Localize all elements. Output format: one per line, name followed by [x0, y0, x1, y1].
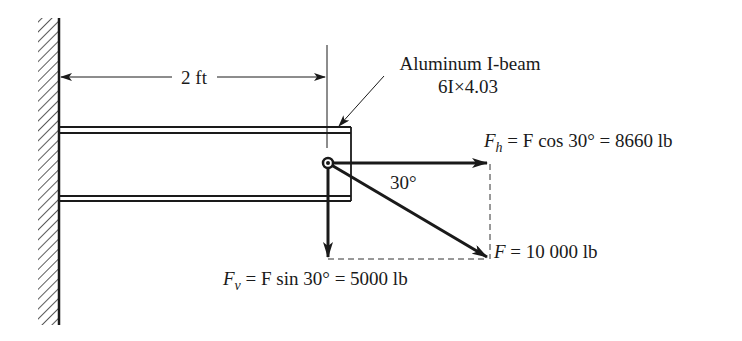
f-symbol: F: [493, 241, 506, 262]
beam-label-name: Aluminum I-beam: [400, 53, 541, 74]
f-expression: = 10 000 lb: [506, 241, 598, 262]
fh-label: Fh = F cos 30° = 8660 lb: [483, 130, 673, 155]
fv-label: Fv = F sin 30° = 5000 lb: [222, 268, 408, 293]
fh-symbol: F: [483, 130, 496, 151]
beam-force-diagram: 2 ft Aluminum I-beam 6I×4.03 30° Fh = F …: [0, 0, 742, 341]
fv-symbol: F: [222, 268, 235, 289]
angle-label: 30°: [390, 172, 417, 193]
dimension-label: 2 ft: [181, 67, 208, 88]
fv-expression: = F sin 30° = 5000 lb: [241, 268, 408, 289]
beam-label: Aluminum I-beam 6I×4.03: [339, 53, 541, 126]
leader-line: [339, 76, 384, 126]
wall-hatching: [38, 18, 59, 325]
i-beam: [59, 127, 351, 201]
fh-expression: = F cos 30° = 8660 lb: [503, 130, 673, 151]
beam-label-size: 6I×4.03: [438, 76, 498, 97]
fh-subscript: h: [496, 140, 503, 155]
f-label: F = 10 000 lb: [493, 241, 598, 262]
fixed-wall: [38, 18, 59, 325]
pin-center: [326, 161, 330, 165]
